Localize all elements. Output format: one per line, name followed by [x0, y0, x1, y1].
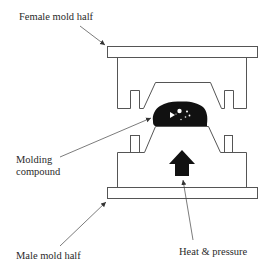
female-mold-half — [108, 47, 258, 109]
leader-female-mold — [80, 26, 105, 45]
label-male-mold-half: Male mold half — [16, 250, 81, 261]
female-mold-body — [118, 58, 247, 109]
male-mold-bottom-plate — [108, 188, 258, 199]
label-molding-compound-line1: Molding — [16, 154, 52, 165]
label-heat-pressure: Heat & pressure — [179, 246, 247, 257]
leader-molding-compound — [60, 118, 151, 157]
male-mold-left-pin — [131, 136, 140, 153]
heat-pressure-arrow-icon — [169, 150, 195, 176]
leader-heat-pressure — [183, 180, 193, 240]
male-mold-right-pin — [225, 136, 233, 153]
label-molding-compound-line2: compound — [16, 166, 60, 177]
molding-compound — [153, 101, 208, 126]
female-mold-top-plate — [108, 47, 258, 58]
compression-molding-diagram — [0, 0, 270, 273]
leader-male-mold — [60, 202, 106, 246]
leader-lines — [60, 26, 193, 246]
label-female-mold-half: Female mold half — [19, 11, 93, 22]
molding-compound-blob — [153, 101, 208, 126]
